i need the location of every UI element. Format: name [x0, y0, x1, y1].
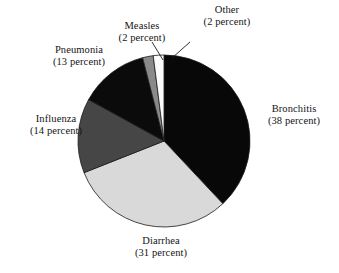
slice-label-other: Other (2 percent) [189, 4, 265, 28]
slice-label-measles-percent: (2 percent) [104, 32, 180, 44]
leader-line-other [172, 42, 190, 58]
slice-label-bronchitis: Bronchitis (38 percent) [252, 103, 336, 127]
slice-label-bronchitis-percent: (38 percent) [252, 115, 336, 127]
slice-label-pneumonia-percent: (13 percent) [34, 56, 124, 68]
slice-label-measles-name: Measles [104, 20, 180, 32]
slice-label-bronchitis-name: Bronchitis [252, 103, 336, 115]
slice-label-influenza: Influenza (14 percent) [14, 113, 98, 137]
slice-label-influenza-percent: (14 percent) [14, 125, 98, 137]
slice-label-diarrhea: Diarrhea (31 percent) [116, 235, 206, 259]
slice-label-measles: Measles (2 percent) [104, 20, 180, 44]
slice-label-diarrhea-name: Diarrhea [116, 235, 206, 247]
slice-label-diarrhea-percent: (31 percent) [116, 247, 206, 259]
slice-label-other-percent: (2 percent) [189, 16, 265, 28]
slice-label-pneumonia: Pneumonia (13 percent) [34, 44, 124, 68]
pie-slices-group [78, 55, 250, 227]
slice-label-influenza-name: Influenza [14, 113, 98, 125]
pie-chart-figure: Other (2 percent) Measles (2 percent) Pn… [0, 0, 339, 273]
slice-label-pneumonia-name: Pneumonia [34, 44, 124, 56]
slice-label-other-name: Other [189, 4, 265, 16]
